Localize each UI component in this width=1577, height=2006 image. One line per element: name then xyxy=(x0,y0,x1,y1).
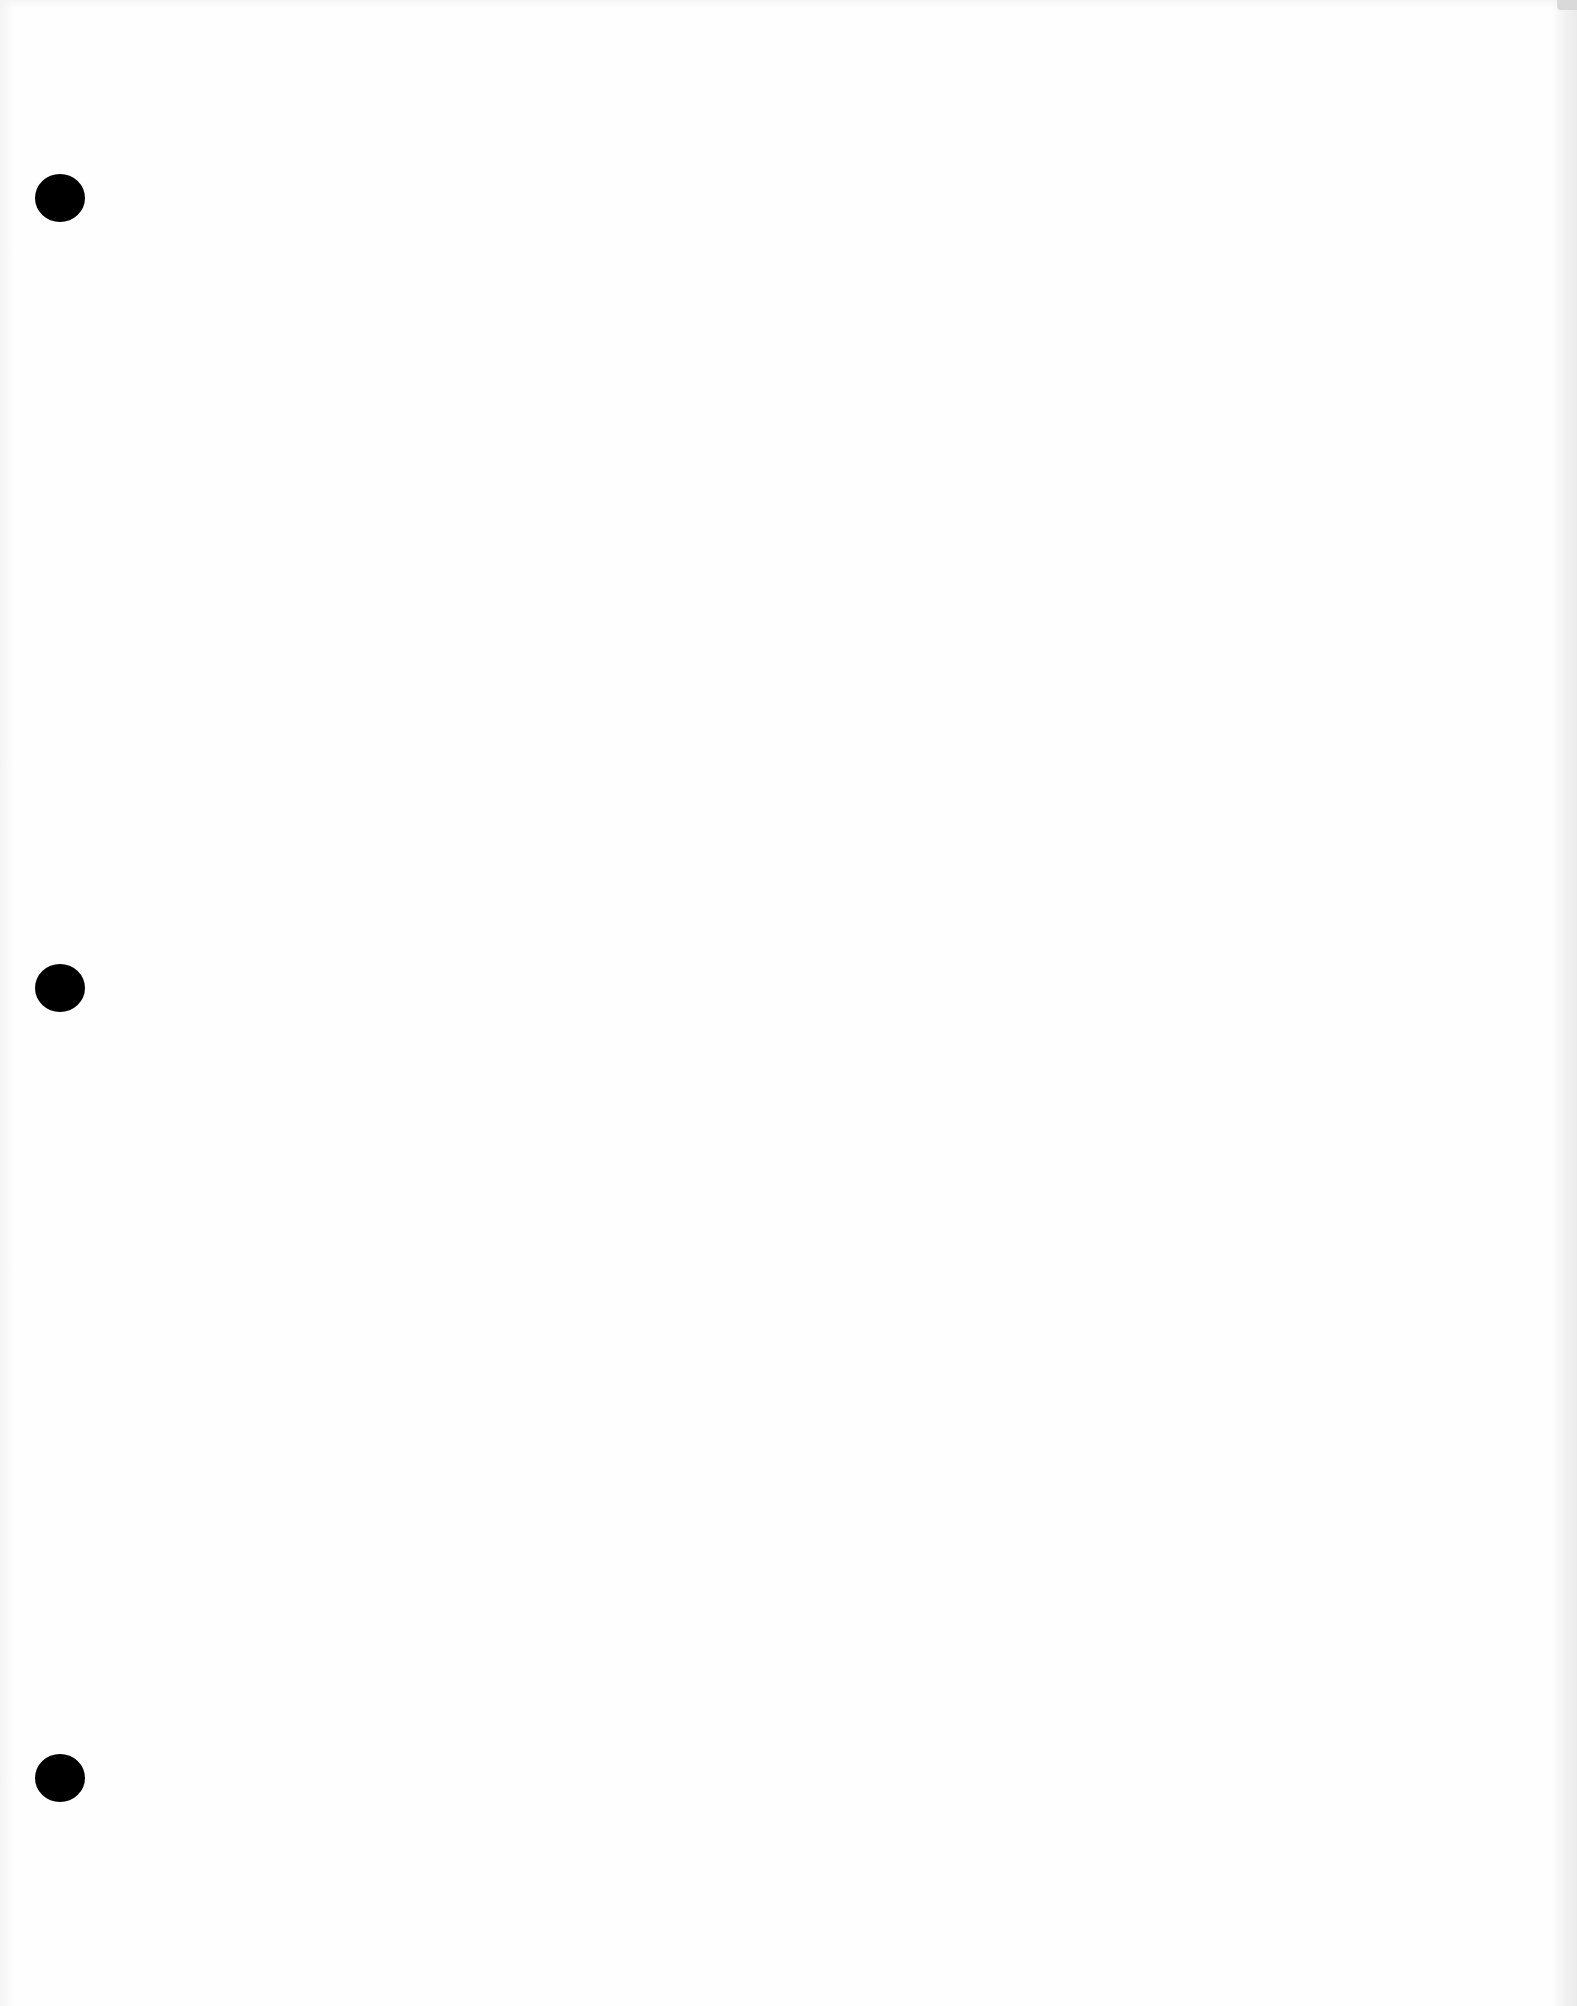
punch-hole-top xyxy=(35,174,85,222)
punch-hole-middle xyxy=(35,964,85,1012)
blank-page xyxy=(0,0,1577,2006)
page-top-edge-shading xyxy=(0,0,1577,8)
page-right-edge-shading xyxy=(1551,0,1577,2006)
page-left-edge-shading xyxy=(0,0,14,2006)
page-corner-mark xyxy=(1557,0,1577,10)
punch-hole-bottom xyxy=(35,1754,85,1802)
